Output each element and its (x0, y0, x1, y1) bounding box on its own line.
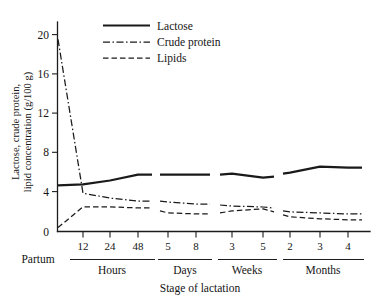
legend-label-lactose: Lactose (157, 20, 193, 32)
y-tick-label-8: 8 (43, 146, 49, 158)
x-tick-label-hours-12: 12 (78, 240, 89, 252)
x-tick-label-months-2: 2 (287, 240, 293, 252)
y-tick-label-16: 16 (38, 68, 50, 80)
y-axis-title-line-1: Lactose, crude protein, (10, 84, 21, 180)
x-group-label-days: Days (173, 264, 197, 277)
y-axis-title-line-2: lipid concentration (g/100 g) (22, 71, 34, 192)
y-tick-label-20: 20 (38, 29, 50, 41)
x-group-label-partum: Partum (21, 253, 54, 265)
y-axis-title: Lactose, crude protein, lipid concentrat… (10, 71, 34, 192)
lactation-composition-chart: Lactose, crude protein, lipid concentrat… (0, 0, 375, 298)
y-tick-0: 0 (43, 226, 49, 238)
x-axis-title: Stage of lactation (160, 282, 241, 295)
x-tick-label-months-4: 4 (345, 240, 351, 252)
x-group-label-months: Months (305, 264, 341, 276)
y-tick-label-0: 0 (43, 226, 49, 238)
x-tick-label-hours-24: 24 (105, 240, 117, 252)
x-tick-label-hours-48: 48 (133, 240, 145, 252)
x-tick-label-weeks-3: 3 (229, 240, 235, 252)
y-tick-label-12: 12 (38, 107, 50, 119)
x-tick-label-months-3: 3 (317, 240, 323, 252)
x-tick-label-days-5: 5 (165, 240, 171, 252)
x-tick-label-days-8: 8 (193, 240, 199, 252)
y-tick-label-4: 4 (43, 186, 49, 198)
chart-canvas: Lactose, crude protein, lipid concentrat… (0, 0, 375, 298)
legend-label-lipids: Lipids (157, 52, 187, 65)
x-group-label-hours: Hours (98, 264, 127, 276)
x-tick-label-weeks-5: 5 (260, 240, 266, 252)
legend-label-crude-protein: Crude protein (157, 36, 221, 49)
x-group-label-weeks: Weeks (232, 264, 263, 276)
